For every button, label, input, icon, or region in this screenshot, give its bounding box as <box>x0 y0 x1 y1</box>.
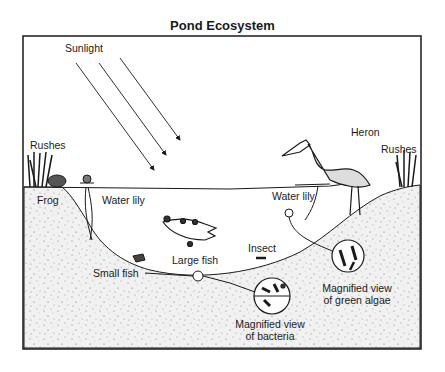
label-algae-line1: Magnified view <box>322 282 391 294</box>
label-bacteria-line2: of bacteria <box>245 330 294 342</box>
label-rushes-left: Rushes <box>30 139 66 151</box>
label-heron: Heron <box>351 126 380 138</box>
label-water-lily-right: Water lily <box>272 190 315 202</box>
label-insect: Insect <box>248 242 276 254</box>
label-small-fish: Small fish <box>93 267 139 279</box>
frog <box>48 175 66 187</box>
label-bacteria-line1: Magnified view <box>235 318 304 330</box>
label-frog: Frog <box>37 194 59 206</box>
label-sunlight: Sunlight <box>65 42 103 54</box>
label-rushes-right: Rushes <box>381 143 417 155</box>
label-large-fish: Large fish <box>172 254 218 266</box>
pond-diagram <box>0 0 445 372</box>
label-algae-line2: of green algae <box>323 294 390 306</box>
bacteria-magnifier <box>254 278 290 314</box>
algae-magnifier <box>332 240 364 272</box>
label-water-lily-left: Water lily <box>102 194 145 206</box>
